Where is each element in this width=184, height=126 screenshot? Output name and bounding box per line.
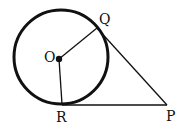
diagram-canvas: O Q R P [0,0,184,126]
label-o: O [44,49,55,65]
label-r: R [56,109,67,125]
radius-oq [59,28,97,59]
label-q: Q [99,11,110,27]
center-dot [56,56,62,62]
label-p: P [166,108,175,124]
radius-or [59,59,62,104]
